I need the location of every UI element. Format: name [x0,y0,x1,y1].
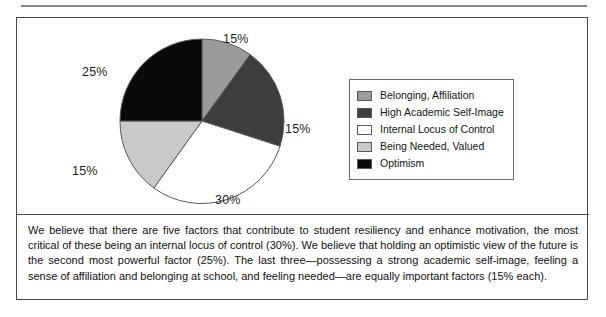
pie-value-label-needed: 15% [72,164,98,178]
legend-swatch-icon [357,142,372,152]
legend-swatch-icon [357,91,372,101]
legend-item-academic[interactable]: High Academic Self-Image [357,104,505,121]
pie-slice-optimism[interactable] [120,39,202,121]
pie-chart-svg [117,36,287,206]
legend-item-optimism[interactable]: Optimism [357,155,505,172]
figure-box: 15% 15% 30% 15% 25% Belonging, Affiliati… [16,17,588,300]
figure-caption-text: We believe that there are five factors t… [28,223,578,284]
legend-item-label: Belonging, Affiliation [380,90,474,101]
legend-swatch-icon [357,159,372,169]
legend-item-label: Optimism [380,158,424,169]
legend-item-label: Internal Locus of Control [380,124,494,135]
legend-item-label: High Academic Self-Image [380,107,504,118]
pie-value-label-optimism: 25% [82,65,108,79]
legend-item-needed[interactable]: Being Needed, Valued [357,138,505,155]
legend-item-label: Being Needed, Valued [380,141,484,152]
pie-value-label-academic: 15% [285,122,311,136]
legend-swatch-icon [357,125,372,135]
legend-swatch-icon [357,108,372,118]
top-horizontal-rule [21,5,587,7]
pie-chart [117,36,287,206]
figure-caption: We believe that there are five factors t… [17,215,589,300]
pie-value-label-internal: 30% [215,193,241,207]
legend-item-internal[interactable]: Internal Locus of Control [357,121,505,138]
chart-legend: Belonging, Affiliation High Academic Sel… [349,79,514,180]
pie-value-label-belonging: 15% [223,32,249,46]
legend-item-belonging[interactable]: Belonging, Affiliation [357,87,505,104]
pie-chart-area: 15% 15% 30% 15% 25% Belonging, Affiliati… [17,18,589,214]
